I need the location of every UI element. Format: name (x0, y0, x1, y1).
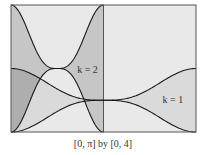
k2-label: k = 2 (77, 64, 98, 75)
k1-label: k = 1 (163, 94, 184, 105)
window-caption: [0, π] by [0, 4] (0, 138, 206, 149)
plot-area: k = 2 k = 1 (0, 0, 206, 138)
